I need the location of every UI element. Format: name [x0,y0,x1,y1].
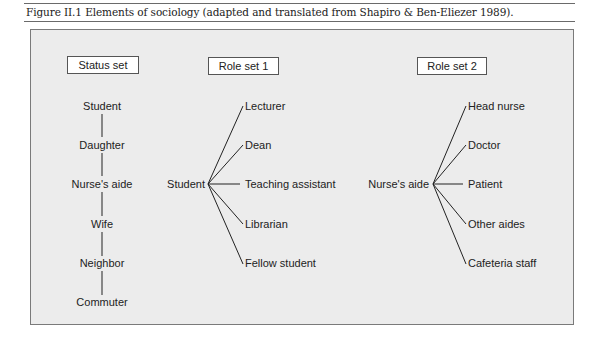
status-item-neighbor: Neighbor [80,257,125,269]
role-fellow-student: Fellow student [245,257,316,269]
role-patient: Patient [468,178,502,190]
role-cafeteria-staff: Cafeteria staff [468,257,536,269]
status-set-title-box: Status set [67,56,139,74]
role-other-aides: Other aides [468,218,525,230]
connector-lines [0,0,606,337]
status-item-daughter: Daughter [79,139,124,151]
role-set-1-hub: Student [167,178,205,190]
role-doctor: Doctor [468,139,500,151]
role-set-2-title: Role set 2 [427,60,477,72]
status-item-wife: Wife [91,218,113,230]
role-set-1-title-box: Role set 1 [208,57,279,75]
role-lecturer: Lecturer [245,100,285,112]
status-set-title: Status set [79,59,128,71]
status-item-nurses-aide: Nurse's aide [72,178,133,190]
role-dean: Dean [245,139,271,151]
status-item-commuter: Commuter [76,296,127,308]
role-teaching-assistant: Teaching assistant [245,178,336,190]
status-item-student: Student [83,100,121,112]
role-librarian: Librarian [245,218,288,230]
role-set-1-title: Role set 1 [219,60,269,72]
role-set-2-title-box: Role set 2 [417,57,487,75]
role-set-2-hub: Nurse's aide [368,178,429,190]
role-head-nurse: Head nurse [468,100,525,112]
